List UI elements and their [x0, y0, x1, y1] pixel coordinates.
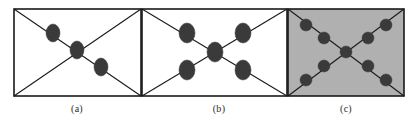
panel-c-caption: (c) [316, 103, 376, 114]
panel-b-node [235, 23, 251, 43]
panel-a-caption: (a) [47, 103, 107, 114]
panel-c-node [300, 74, 312, 86]
panel-b-node [235, 60, 251, 80]
panel-a-node [46, 24, 60, 42]
panel-c-node [340, 46, 352, 58]
panel-c-node [318, 32, 330, 44]
panel-c-node [300, 19, 312, 31]
panel-c-node [318, 60, 330, 72]
panel-c-node [362, 60, 374, 72]
panel-b-node [179, 23, 195, 43]
panel-b-node [207, 42, 223, 62]
panel-c-node [362, 32, 374, 44]
panel-c-node [380, 19, 392, 31]
figure-container: (a) (b) (c) [0, 0, 417, 126]
panel-a-node [94, 58, 108, 76]
panel-b [142, 9, 287, 96]
panel-a [14, 9, 141, 96]
panel-a-node [70, 41, 84, 59]
panel-c-node [380, 74, 392, 86]
panel-b-caption: (b) [189, 103, 249, 114]
panel-b-node [179, 60, 195, 80]
panel-c [288, 9, 404, 96]
